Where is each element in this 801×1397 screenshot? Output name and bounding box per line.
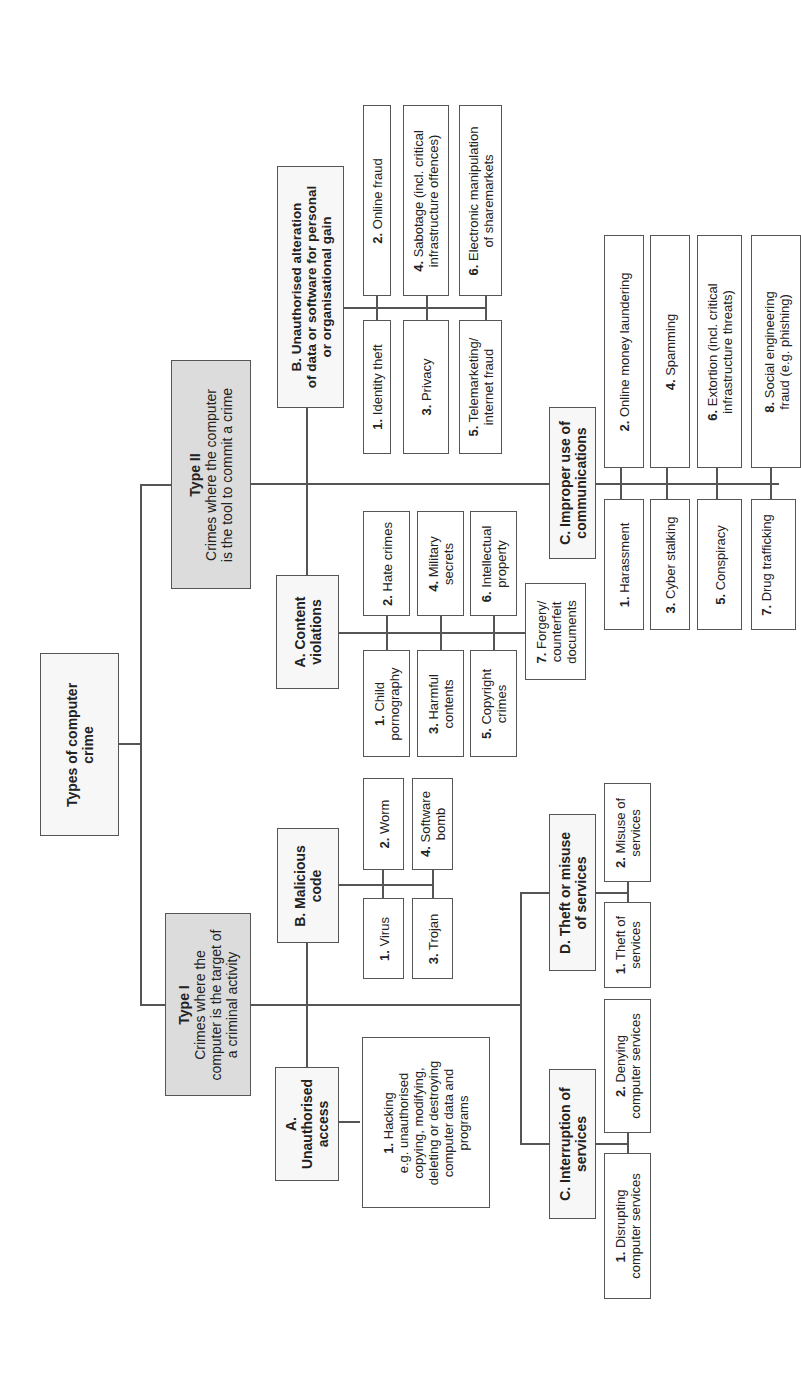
type2-title: Type II	[187, 387, 203, 561]
category-label: C. Interruption of	[557, 1087, 573, 1201]
item-trojan: 3. Trojan	[412, 898, 453, 979]
item-online-fraud: 2. Online fraud	[363, 105, 391, 296]
connector-theft-items	[627, 882, 629, 902]
item-forgery: 7. Forgery/counterfeitdocuments	[525, 583, 586, 680]
connector-alteration-1	[376, 295, 378, 320]
item-cyber-stalking: 3. Cyber stalking	[650, 499, 690, 630]
connector-malicious-1	[382, 870, 384, 898]
category-label: violations	[308, 597, 324, 668]
connector-content-1	[386, 615, 388, 650]
connector-root	[118, 743, 140, 745]
item-extortion: 6. Extortion (incl. criticalinfrastructu…	[697, 235, 742, 468]
type1-title: Type I	[176, 929, 192, 1080]
item-denying-computer-services: 2. Denyingcomputer services	[604, 999, 651, 1133]
connector-malicious-bar	[338, 884, 433, 886]
connector-type2-trunk	[250, 483, 779, 485]
category-label: A. Content	[292, 597, 308, 668]
category-label: C. Improper use of	[557, 421, 573, 545]
connector-comm-2	[666, 465, 668, 502]
item-drug-trafficking: 7. Drug trafficking	[751, 499, 796, 630]
category-label: A.	[283, 1079, 299, 1169]
connector-type2-ab	[306, 407, 308, 575]
root-title-line: crime	[80, 682, 96, 806]
connector-interrupt-bar	[595, 1143, 627, 1145]
item-electronic-manipulation: 6. Electronic manipulationof sharemarket…	[459, 105, 502, 296]
connector-comm-1	[620, 465, 622, 502]
category-label: services	[573, 1087, 589, 1201]
item-harmful-contents: 3. Harmfulcontents	[417, 650, 464, 757]
category-label: B. Malicious	[292, 845, 308, 927]
category-label: D. Theft or misuse	[557, 831, 573, 953]
item-telemarketing: 5. Telemarketing/internet fraud	[459, 320, 502, 454]
connector-content-bar	[338, 632, 530, 634]
type2-desc: is the tool to commit a crime	[219, 387, 235, 561]
category-label: or organisational gain	[318, 186, 333, 389]
connector-type1	[140, 1004, 165, 1006]
item-harassment: 1. Harassment	[604, 499, 644, 630]
connector-alteration-2	[426, 295, 428, 320]
category-theft-or-misuse: D. Theft or misuse of services	[549, 814, 596, 971]
connector-theft-bar	[595, 892, 627, 894]
item-hate-crimes: 2. Hate crimes	[363, 511, 410, 616]
connector-type1-trunk	[250, 1004, 520, 1006]
connector-malicious-2	[432, 870, 434, 898]
category-unauthorised-access: A. Unauthorised access	[275, 1067, 339, 1181]
item-theft-of-services: 1. Theft ofservices	[604, 902, 651, 988]
type2-desc: Crimes where the computer	[203, 387, 219, 561]
type1-desc: Crimes where the	[192, 929, 208, 1080]
category-label: Unauthorised	[299, 1079, 315, 1169]
category-label: access	[315, 1079, 331, 1169]
item-worm: 2. Worm	[363, 778, 404, 870]
type1-desc: a criminal activity	[224, 929, 240, 1080]
category-label: B. Unauthorised alteration	[288, 186, 303, 389]
item-social-engineering: 8. Social engineeringfraud (e.g. phishin…	[751, 235, 801, 468]
type1-desc: computer is the target of	[208, 929, 224, 1080]
connector-interrupt-items	[627, 1133, 629, 1153]
item-child-pornography: 1. Childpornography	[363, 650, 410, 757]
category-content-violations: A. Content violations	[276, 575, 339, 689]
type1-node: Type I Crimes where the computer is the …	[165, 913, 251, 1096]
item-software-bomb: 4. Softwarebomb	[412, 778, 453, 870]
item-spamming: 4. Spamming	[650, 235, 690, 468]
category-improper-communications: C. Improper use of communications	[549, 407, 596, 559]
connector-type1-ab	[306, 943, 308, 1068]
category-label: code	[308, 845, 324, 927]
category-unauthorised-alteration: B. Unauthorised alteration of data or so…	[277, 166, 344, 408]
connector-type1-cd	[520, 892, 522, 1144]
item-copyright-crimes: 5. Copyrightcrimes	[470, 650, 517, 757]
root-title-line: Types of computer	[64, 682, 80, 806]
item-intellectual-property: 6. Intellectualproperty	[470, 511, 517, 616]
connector-comm-4	[770, 465, 772, 502]
type2-node: Type II Crimes where the computer is the…	[171, 360, 251, 589]
item-online-money-laundering: 2. Online money laundering	[604, 235, 644, 468]
item-identity-theft: 1. Identity theft	[363, 320, 391, 454]
connector-spine	[140, 484, 142, 1005]
category-label: communications	[573, 421, 589, 545]
item-disrupting-computer-services: 1. Disruptingcomputer services	[604, 1153, 651, 1299]
category-interruption-of-services: C. Interruption of services	[549, 1069, 596, 1219]
item-misuse-of-services: 2. Misuse ofservices	[604, 783, 651, 882]
connector-type2	[140, 484, 171, 486]
connector-theft	[520, 892, 550, 894]
category-label: of data or software for personal	[303, 186, 318, 389]
item-conspiracy: 5. Conspiracy	[697, 499, 742, 630]
connector-content-3	[493, 615, 495, 650]
connector-alteration-bar	[343, 307, 487, 309]
connector-interrupt	[520, 1143, 550, 1145]
item-privacy: 3. Privacy	[403, 320, 449, 454]
connector-alteration-3	[485, 295, 487, 320]
item-hacking: 1. Hacking e.g. unauthorised copying, mo…	[362, 1037, 490, 1208]
category-malicious-code: B. Malicious code	[277, 828, 339, 943]
connector-comm-3	[716, 465, 718, 502]
item-military-secrets: 4. Militarysecrets	[417, 511, 464, 616]
root-node: Types of computer crime	[40, 653, 119, 836]
item-virus: 1. Virus	[363, 898, 404, 979]
connector-hacking	[338, 1121, 360, 1123]
category-label: of services	[573, 831, 589, 953]
connector-content-2	[440, 615, 442, 650]
item-sabotage: 4. Sabotage (incl. criticalinfrastructur…	[403, 105, 449, 296]
